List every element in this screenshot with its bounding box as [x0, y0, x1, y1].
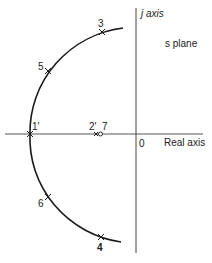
imag-axis-label: j axis: [141, 9, 164, 19]
point-label-4: 4: [97, 243, 103, 253]
point-label-1prime: 1': [32, 122, 39, 132]
point-label-6: 6: [38, 199, 44, 209]
origin-label: 0: [139, 139, 145, 149]
pole-marker-6: [45, 194, 51, 200]
real-axis-label: Real axis: [164, 138, 205, 148]
plane-label: s plane: [165, 39, 197, 49]
zero-marker-7: [99, 132, 103, 136]
zero-label-7: 7: [102, 122, 108, 132]
pole-label-2prime: 2': [89, 122, 96, 132]
point-label-3: 3: [98, 19, 104, 29]
point-label-5: 5: [38, 62, 44, 72]
